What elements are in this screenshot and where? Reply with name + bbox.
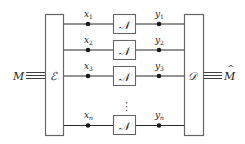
label-y1: y1 [154, 9, 164, 20]
label-xn: xn [84, 110, 93, 121]
vertical-ellipsis: ⋮ [121, 100, 132, 113]
node-y1 [157, 22, 162, 27]
node-yn [157, 123, 162, 128]
channel-row-1: x1 𝒩 y1 [64, 9, 184, 34]
node-x2 [86, 48, 91, 53]
encoder-label: ℰ [50, 70, 58, 83]
channel-coding-diagram: M ℰ 𝒟 M ^ x1 𝒩 y1 x2 𝒩 y2 [0, 0, 245, 144]
label-y3: y3 [154, 61, 164, 72]
label-x2: x2 [84, 35, 93, 46]
node-x1 [86, 22, 91, 27]
channel-row-3: x3 𝒩 y3 [64, 61, 184, 86]
node-xn [86, 123, 91, 128]
svg-text:^: ^ [228, 63, 235, 72]
output-label-m-hat: M ^ [223, 63, 236, 83]
label-y2: y2 [154, 35, 164, 46]
node-y3 [157, 74, 162, 79]
input-bus [26, 73, 45, 79]
channel-row-n: xn 𝒩 yn [64, 110, 184, 135]
label-x3: x3 [84, 61, 93, 72]
output-bus [204, 73, 222, 79]
input-label-m: M [12, 70, 25, 83]
node-x3 [86, 74, 91, 79]
node-y2 [157, 48, 162, 53]
channel-row-2: x2 𝒩 y2 [64, 35, 184, 60]
label-x1: x1 [84, 9, 93, 20]
label-yn: yn [154, 110, 164, 121]
